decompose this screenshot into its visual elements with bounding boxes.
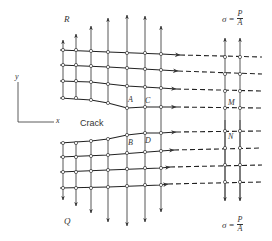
point-n-label: N <box>228 133 233 141</box>
lower-dashed-lines <box>168 131 262 184</box>
point-m-label: M <box>228 99 235 107</box>
crack-stress-flow-diagram: R Q Crack y x A C B D M N σ = P A σ = P … <box>0 0 272 241</box>
stress-formula-top: σ = P A <box>222 10 243 27</box>
denominator: A <box>238 19 243 27</box>
lower-stress-arrows <box>63 107 161 226</box>
force-label-r: R <box>64 15 70 24</box>
equals-sign: = <box>228 14 234 24</box>
point-c-label: C <box>145 97 150 105</box>
point-a-label: A <box>128 96 133 104</box>
uniform-stress-grid <box>225 38 240 201</box>
lower-flow-lines <box>60 132 176 188</box>
crack-label: Crack <box>80 119 104 128</box>
sigma-symbol: σ <box>222 14 226 24</box>
sigma-symbol: σ <box>222 220 226 230</box>
upper-dashed-lines <box>176 55 262 108</box>
upper-flow-lines <box>60 50 180 108</box>
diagram-canvas <box>0 0 272 241</box>
point-d-label: D <box>145 137 151 145</box>
denominator: A <box>238 225 243 233</box>
fraction: P A <box>237 216 244 233</box>
force-label-q: Q <box>64 217 71 226</box>
fraction: P A <box>237 10 244 27</box>
upper-stress-arrows <box>63 15 161 108</box>
equals-sign: = <box>228 220 234 230</box>
stress-formula-bottom: σ = P A <box>222 216 243 233</box>
axis-y-label: y <box>15 73 19 81</box>
axis-x-label: x <box>56 117 60 125</box>
point-b-label: B <box>128 139 133 147</box>
coordinate-axes <box>18 82 54 122</box>
